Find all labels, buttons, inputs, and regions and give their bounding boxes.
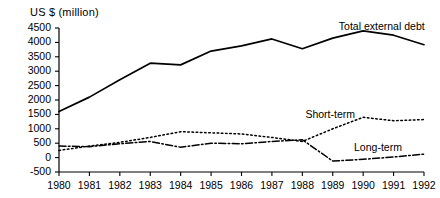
y-tick-label: 1500: [11, 107, 51, 119]
y-tick-label: 1000: [11, 122, 51, 134]
y-tick-label: 0: [11, 151, 51, 163]
series-label: Short-term: [305, 108, 355, 120]
y-tick-label: 500: [11, 136, 51, 148]
y-tick-label: 2000: [11, 93, 51, 105]
y-tick-label: 3500: [11, 50, 51, 62]
y-tick-label: 3000: [11, 64, 51, 76]
x-axis-ticks: [59, 172, 424, 176]
y-tick-label: 4000: [11, 35, 51, 47]
y-tick-label: 4500: [11, 21, 51, 33]
series-line: [59, 31, 424, 112]
y-tick-label: 2500: [11, 79, 51, 91]
y-tick-label: -500: [11, 165, 51, 177]
series-label: Total external debt: [339, 20, 425, 32]
series-label: Long-term: [354, 141, 402, 153]
x-tick-label: 1992: [406, 179, 440, 191]
